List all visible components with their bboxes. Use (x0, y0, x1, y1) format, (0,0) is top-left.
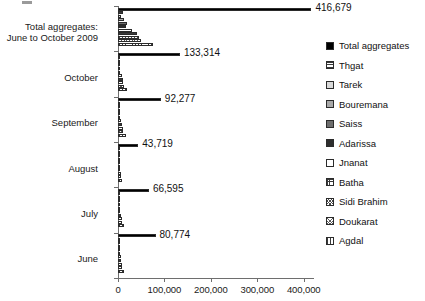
legend-item[interactable]: Bouremana (326, 95, 425, 115)
legend-swatch-icon (326, 159, 334, 167)
bar (118, 88, 127, 91)
legend-label: Adarissa (339, 138, 376, 149)
bar (118, 71, 120, 74)
bar (118, 144, 138, 147)
bar (118, 81, 123, 84)
bar (118, 263, 122, 266)
legend-swatch-icon (326, 139, 334, 147)
x-axis-tick (118, 278, 119, 282)
y-axis-tick (114, 97, 118, 98)
bar (118, 15, 121, 18)
legend-label: Sidi Brahim (339, 196, 388, 207)
bar (118, 134, 126, 137)
bar (118, 234, 156, 237)
bar-value-label: 43,719 (142, 138, 173, 149)
category-label-line: September (52, 117, 98, 128)
legend-label: Total aggregates (339, 40, 409, 51)
legend-item[interactable]: Adarissa (326, 134, 425, 154)
bar (118, 36, 139, 39)
bar-value-label: 80,774 (160, 229, 191, 240)
x-axis-tick-label: 0 (115, 284, 120, 295)
bar (118, 43, 153, 46)
bar (118, 192, 120, 195)
bar (118, 168, 120, 171)
bar (118, 238, 120, 241)
bar (118, 109, 120, 112)
bar (118, 130, 123, 133)
legend-item[interactable]: Tarek (326, 75, 425, 95)
legend-item[interactable]: Jnanat (326, 153, 425, 173)
bar (118, 123, 122, 126)
bar (118, 11, 123, 14)
legend-swatch-icon (326, 81, 334, 89)
legend-label: Jnanat (339, 157, 368, 168)
bar (118, 252, 120, 255)
category-label-line: October (64, 72, 98, 83)
x-axis-tick-label: 300,000 (240, 284, 274, 295)
category-label-line: July (81, 208, 98, 219)
bar (118, 248, 120, 251)
bar-group (118, 187, 313, 232)
bar (118, 179, 122, 182)
y-axis-category-label: Total aggregates:June to October 2009 (7, 21, 98, 43)
legend-item[interactable]: Sidi Brahim (326, 192, 425, 212)
bar (118, 207, 120, 210)
bar (118, 259, 121, 262)
bar (118, 210, 120, 213)
bar (118, 203, 120, 206)
bar (118, 32, 137, 35)
bar (118, 151, 120, 154)
bar-value-label: 133,314 (184, 47, 220, 58)
bar (118, 112, 120, 115)
plot-area: 416,679133,31492,27743,71966,59580,774 (118, 6, 313, 278)
legend-item[interactable]: Saiss (326, 114, 425, 134)
bar (118, 245, 120, 248)
legend-item[interactable]: Total aggregates (326, 36, 425, 56)
x-axis-tick (304, 278, 305, 282)
category-label-line: Total aggregates: (7, 21, 98, 32)
bar (118, 199, 120, 202)
legend-swatch-icon (326, 178, 334, 186)
legend-item[interactable]: Agdal (326, 231, 425, 251)
legend-label: Tarek (339, 79, 362, 90)
category-label-line: June to October 2009 (7, 32, 98, 43)
bar (118, 189, 149, 192)
y-axis-tick (114, 278, 118, 279)
legend-label: Doukarat (339, 216, 378, 227)
bar (118, 63, 120, 66)
bar (118, 266, 122, 269)
bar-value-label: 416,679 (315, 2, 351, 13)
bar (118, 18, 124, 21)
bar (118, 196, 120, 199)
x-axis-tick-label: 200,000 (194, 284, 228, 295)
bar (118, 60, 120, 63)
bar (118, 67, 120, 70)
chart-legend: Total aggregatesThgatTarekBouremanaSaiss… (326, 36, 425, 251)
y-axis-category-label: July (81, 208, 98, 219)
x-axis-tick (257, 278, 258, 282)
legend-item[interactable]: Batha (326, 173, 425, 193)
x-axis-tick-label: 400,000 (287, 284, 321, 295)
bar (118, 29, 132, 32)
bar-chart: 416,679133,31492,27743,71966,59580,774 0… (0, 0, 425, 301)
bar (118, 119, 121, 122)
legend-label: Batha (339, 177, 364, 188)
bar (118, 105, 120, 108)
legend-item[interactable]: Doukarat (326, 212, 425, 232)
bar (118, 158, 120, 161)
category-label-line: June (77, 253, 98, 264)
bar (118, 56, 120, 59)
bar (118, 224, 124, 227)
bar (118, 98, 161, 101)
bar-group (118, 233, 313, 278)
legend-label: Saiss (339, 118, 362, 129)
legend-item[interactable]: Thgat (326, 56, 425, 76)
bar (118, 165, 120, 168)
legend-swatch-icon (326, 217, 334, 225)
bar (118, 175, 121, 178)
x-axis-tick (164, 278, 165, 282)
y-axis-tick (114, 6, 118, 7)
bar (118, 116, 120, 119)
bar (118, 74, 122, 77)
y-axis-category-label: August (68, 163, 98, 174)
